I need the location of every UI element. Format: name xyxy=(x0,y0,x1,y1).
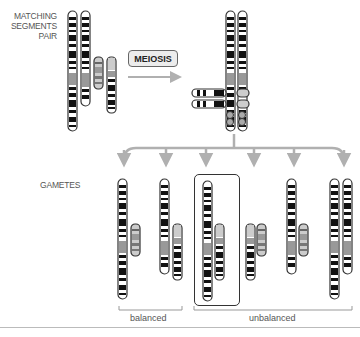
unbalanced-label: unbalanced xyxy=(249,313,296,323)
gamete-6 xyxy=(330,179,352,299)
chromosome-pair-left xyxy=(68,11,116,131)
bottom-divider xyxy=(0,327,360,328)
meiosis-diagram xyxy=(0,0,360,337)
unbalanced-bracket xyxy=(194,306,352,310)
gamete-1 xyxy=(118,179,140,299)
balanced-label: balanced xyxy=(130,313,167,323)
distribution-arrows xyxy=(124,134,344,160)
highlighted-gamete-box xyxy=(194,174,240,306)
pairing-cross xyxy=(192,11,249,131)
balanced-bracket xyxy=(119,306,182,310)
gamete-5 xyxy=(287,179,308,274)
gamete-4 xyxy=(246,224,266,280)
gamete-2 xyxy=(160,179,182,280)
